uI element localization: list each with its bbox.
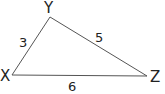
vertex-label-x: X <box>0 67 10 85</box>
vertex-label-y: Y <box>43 0 54 17</box>
vertex-label-z: Z <box>150 68 160 86</box>
side-label-xy: 3 <box>19 35 27 50</box>
side-label-yz: 5 <box>95 30 103 45</box>
triangle-xyz <box>12 17 147 76</box>
triangle-diagram: Y X Z 3 5 6 <box>0 0 165 94</box>
side-label-xz: 6 <box>68 79 76 94</box>
